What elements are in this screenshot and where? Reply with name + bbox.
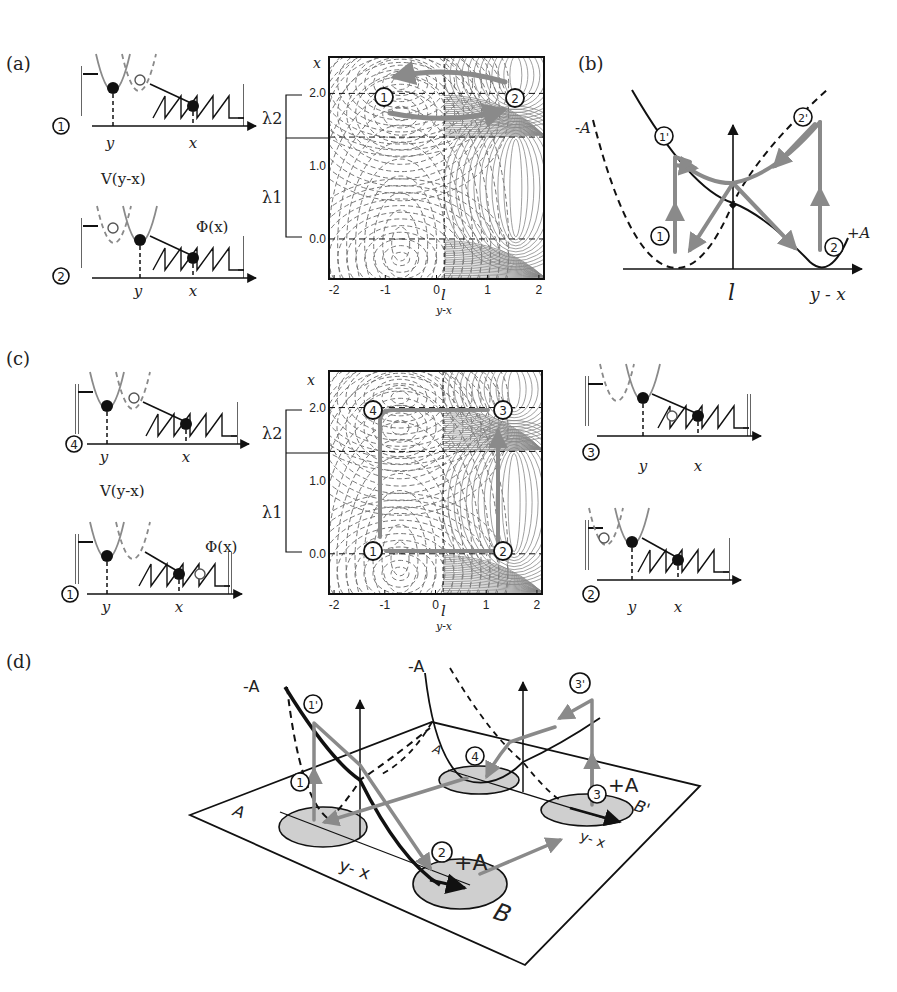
particle-x xyxy=(672,554,684,566)
marker-2: 2 xyxy=(432,842,452,862)
contour-line-right xyxy=(478,355,550,424)
contour-plot-a: -2-10122.01.00.0 xyxy=(293,11,588,448)
panel-label-a: (a) xyxy=(6,53,31,74)
svg-text:1: 1 xyxy=(656,230,664,244)
schematic-a-state-2 xyxy=(80,206,256,278)
lambda2-label: λ2 xyxy=(262,424,282,443)
contour-line-right xyxy=(474,121,558,255)
contour-line-right xyxy=(492,130,540,246)
contour-marker-2: 2 xyxy=(506,89,524,107)
panel-b-diagram xyxy=(593,90,862,269)
contour-line-left xyxy=(373,554,427,594)
label-x: x xyxy=(182,448,191,466)
particle-ghost xyxy=(135,75,145,85)
contour-line-left xyxy=(392,252,410,265)
particle-ghost xyxy=(195,569,205,579)
contour-line-right xyxy=(478,439,550,567)
lambda1-label: λ1 xyxy=(262,503,282,522)
path-1prime-2prime xyxy=(688,122,820,183)
svg-text:2: 2 xyxy=(438,845,446,860)
y-tick-label: 1.0 xyxy=(309,474,326,488)
minus-a-label: -A xyxy=(243,677,259,696)
schematic-a-state-1 xyxy=(80,54,256,126)
contour-line-left xyxy=(293,11,509,157)
schematic-c-state-1 xyxy=(75,522,242,594)
y-axis-label: x xyxy=(307,372,315,388)
contour-marker-3: 3 xyxy=(494,401,512,419)
wall-right xyxy=(235,402,239,444)
path-2prime-down xyxy=(775,124,815,166)
svg-text:2: 2 xyxy=(830,241,838,255)
svg-text:3': 3' xyxy=(575,678,585,691)
y-tick-label: 2.0 xyxy=(309,86,326,100)
l-label: l xyxy=(728,280,735,305)
plus-a-label: +A xyxy=(454,850,487,875)
contour-line-right xyxy=(496,448,532,558)
schematic-c-state-3 xyxy=(585,364,761,436)
linkage xyxy=(150,236,193,256)
particle-ghost xyxy=(667,411,677,421)
contour-line-right xyxy=(460,346,568,433)
potential-well xyxy=(116,522,150,559)
state-marker-c1: 1 xyxy=(62,586,78,602)
contour-marker-4: 4 xyxy=(364,401,382,419)
label-y: y xyxy=(101,598,111,616)
svg-text:3: 3 xyxy=(593,788,601,802)
label-x: x xyxy=(189,134,198,152)
particle-y xyxy=(101,550,113,562)
x-tick-label: 0 xyxy=(432,598,439,612)
minus-a-label: -A xyxy=(575,119,591,137)
marker-2: 2 xyxy=(825,238,843,256)
label-y: y xyxy=(105,134,115,152)
figure-canvas: (a) (b) (c) (d) 1 2 4 1 3 2 y x y x V(y-… xyxy=(0,0,897,992)
particle-x xyxy=(187,100,199,112)
wall-right xyxy=(242,84,246,126)
contour-line-right xyxy=(508,370,520,409)
contour-marker-1: 1 xyxy=(375,88,393,106)
contour-plot-c: -2-10122.01.00.0 xyxy=(292,324,586,763)
state-marker-a2: 2 xyxy=(53,268,69,284)
particle-ghost xyxy=(599,533,609,543)
l-label: l xyxy=(441,602,446,620)
contour-line-left xyxy=(337,439,463,678)
contour-line-left xyxy=(356,159,446,329)
contour-marker-2: 2 xyxy=(494,542,512,560)
particle-y xyxy=(134,234,146,246)
x-tick-label: 2 xyxy=(536,283,543,297)
svg-text:1: 1 xyxy=(380,91,388,105)
contour-line-right xyxy=(498,133,534,243)
lambda1-label: λ1 xyxy=(262,188,282,207)
label-x: x xyxy=(674,598,683,616)
x-tick-label: 0 xyxy=(433,283,440,297)
wall-right xyxy=(228,552,232,594)
svg-text:4: 4 xyxy=(70,438,78,452)
contour-line-right xyxy=(484,442,544,564)
panel-label-c: (c) xyxy=(6,348,30,369)
svg-text:3: 3 xyxy=(587,446,595,460)
svg-text:1': 1' xyxy=(308,699,318,712)
y-tick-label: 2.0 xyxy=(309,401,326,415)
svg-text:2: 2 xyxy=(57,270,65,284)
wall-right xyxy=(242,236,246,278)
marker-1: 1 xyxy=(291,773,309,791)
svg-text:3: 3 xyxy=(499,404,507,418)
marker-1prime: 1' xyxy=(304,695,322,713)
l-label: l xyxy=(441,286,446,304)
contour-line-right xyxy=(486,127,546,249)
marker-2prime: 2' xyxy=(794,108,812,126)
potential-label: V(y-x) xyxy=(99,482,145,500)
label-x: x xyxy=(694,457,703,475)
svg-text:2: 2 xyxy=(587,588,595,602)
particle-x xyxy=(187,252,199,264)
particle-x xyxy=(180,418,192,430)
x-tick-label: -1 xyxy=(380,283,391,297)
y-axis-label: x xyxy=(313,55,321,71)
particle-ghost xyxy=(129,393,139,403)
potential-label: V(y-x) xyxy=(100,170,146,188)
state-marker-a1: 1 xyxy=(53,118,69,134)
label-x: x xyxy=(175,598,184,616)
lambda2-label: λ2 xyxy=(262,109,282,128)
contour-line-left xyxy=(391,391,409,403)
contour-line-right xyxy=(480,124,552,252)
marker-1: 1 xyxy=(651,227,669,245)
